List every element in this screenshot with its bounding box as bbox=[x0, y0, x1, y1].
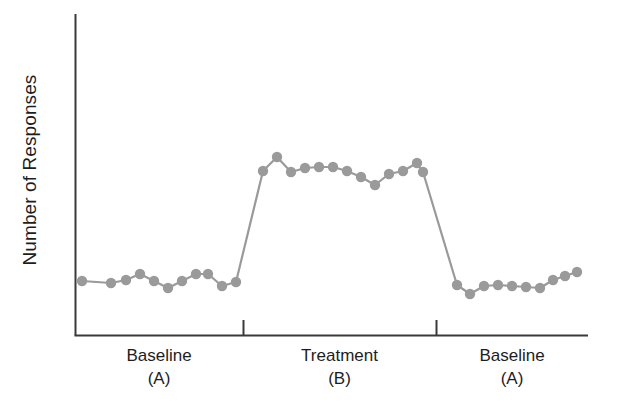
data-point bbox=[314, 162, 324, 172]
data-point bbox=[418, 167, 428, 177]
phase-label-code: (A) bbox=[436, 368, 588, 391]
figure-aba-design-graph: Number of Responses bbox=[0, 0, 620, 419]
data-point bbox=[328, 162, 338, 172]
data-point bbox=[356, 172, 366, 182]
data-point bbox=[121, 275, 131, 285]
data-point bbox=[300, 163, 310, 173]
data-point bbox=[398, 166, 408, 176]
data-point bbox=[203, 269, 213, 279]
data-point bbox=[548, 275, 558, 285]
data-point bbox=[286, 167, 296, 177]
data-point bbox=[370, 180, 380, 190]
data-point bbox=[412, 158, 422, 168]
data-line bbox=[82, 157, 577, 294]
data-point bbox=[149, 276, 159, 286]
data-point bbox=[191, 269, 201, 279]
phase-label-code: (A) bbox=[75, 368, 243, 391]
data-point bbox=[465, 289, 475, 299]
data-point bbox=[342, 166, 352, 176]
data-point bbox=[479, 281, 489, 291]
data-point bbox=[493, 280, 503, 290]
phase-label-name: Treatment bbox=[301, 346, 378, 365]
data-point bbox=[106, 278, 116, 288]
data-point bbox=[272, 152, 282, 162]
phase-label-code: (B) bbox=[243, 368, 436, 391]
phase-label-name: Baseline bbox=[126, 346, 191, 365]
data-point bbox=[507, 281, 517, 291]
data-point bbox=[77, 276, 87, 286]
phase-label-baseline-2: Baseline (A) bbox=[436, 345, 588, 390]
data-markers-phase-a2 bbox=[452, 267, 582, 299]
data-point bbox=[258, 166, 268, 176]
data-point bbox=[572, 267, 582, 277]
data-point bbox=[135, 269, 145, 279]
data-markers-phase-b bbox=[258, 152, 428, 190]
phase-label-baseline-1: Baseline (A) bbox=[75, 345, 243, 390]
data-point bbox=[163, 283, 173, 293]
data-point bbox=[452, 280, 462, 290]
data-point bbox=[231, 277, 241, 287]
data-point bbox=[384, 169, 394, 179]
data-point bbox=[521, 282, 531, 292]
data-point bbox=[560, 271, 570, 281]
data-point bbox=[217, 281, 227, 291]
phase-label-treatment: Treatment (B) bbox=[243, 345, 436, 390]
data-point bbox=[177, 276, 187, 286]
phase-label-name: Baseline bbox=[479, 346, 544, 365]
data-point bbox=[535, 283, 545, 293]
